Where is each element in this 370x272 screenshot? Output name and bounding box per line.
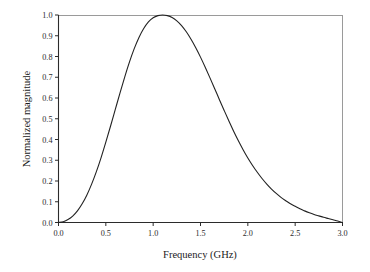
x-tick-label: 0.0 (53, 229, 63, 238)
data-curve (59, 15, 343, 223)
x-tick-label: 2.0 (243, 229, 253, 238)
x-axis-tick-labels: 0.00.51.01.52.02.53.0 (53, 229, 347, 238)
y-axis-tick-labels: 0.00.10.20.30.40.50.60.70.80.91.0 (42, 11, 52, 228)
y-tick-label: 0.5 (42, 115, 52, 124)
y-tick-label: 0.4 (42, 136, 52, 145)
x-tick-label: 2.5 (290, 229, 300, 238)
x-tick-label: 0.5 (101, 229, 111, 238)
x-tick-label: 1.0 (148, 229, 158, 238)
figure-container: 0.00.10.20.30.40.50.60.70.80.91.0 0.00.5… (0, 0, 370, 272)
chart-svg: 0.00.10.20.30.40.50.60.70.80.91.0 0.00.5… (0, 0, 370, 272)
y-tick-label: 0.2 (42, 177, 52, 186)
data-series-group (59, 15, 343, 223)
y-tick-label: 1.0 (42, 11, 52, 20)
x-tick-label: 3.0 (337, 229, 347, 238)
y-tick-label: 0.6 (42, 94, 52, 103)
x-tick-label: 1.5 (195, 229, 205, 238)
x-axis-title: Frequency (GHz) (163, 249, 237, 261)
y-axis-title: Normalized magnitude (21, 70, 32, 167)
y-tick-label: 0.1 (42, 198, 52, 207)
y-tick-label: 0.8 (42, 53, 52, 62)
y-tick-label: 0.0 (42, 219, 52, 228)
plot-frame (58, 15, 343, 223)
y-tick-label: 0.3 (42, 156, 52, 165)
y-tick-label: 0.9 (42, 32, 52, 41)
y-tick-label: 0.7 (42, 73, 52, 82)
